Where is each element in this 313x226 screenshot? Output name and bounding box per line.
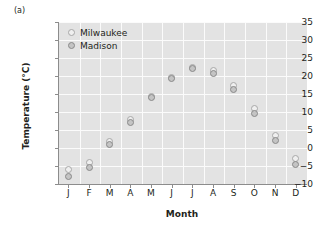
y-tick-mark xyxy=(55,94,58,95)
data-point xyxy=(251,110,258,117)
x-tick-label: N xyxy=(265,188,285,198)
y-tick-label: 15 xyxy=(265,89,313,99)
y-tick-mark xyxy=(55,76,58,77)
data-point xyxy=(210,70,217,77)
x-tick-label: F xyxy=(79,188,99,198)
y-tick-mark xyxy=(55,22,58,23)
x-tick-label: M xyxy=(141,188,161,198)
x-tick-label: J xyxy=(162,188,182,198)
x-tick-label: S xyxy=(224,188,244,198)
data-point xyxy=(106,141,113,148)
data-point xyxy=(65,166,72,173)
legend-item-madison[interactable]: Madison xyxy=(68,39,127,52)
x-tick-label: D xyxy=(286,188,306,198)
y-tick-mark xyxy=(55,130,58,131)
y-tick-label: 35 xyxy=(265,17,313,27)
gridline-vertical xyxy=(224,22,225,184)
x-axis-title: Month xyxy=(58,209,306,219)
filled-circle-icon xyxy=(68,42,75,49)
x-tick-label: A xyxy=(203,188,223,198)
y-tick-mark xyxy=(55,166,58,167)
open-circle-icon xyxy=(68,29,75,36)
legend-item-milwaukee[interactable]: Milwaukee xyxy=(68,26,127,39)
y-tick-mark xyxy=(55,148,58,149)
gridline-vertical xyxy=(142,22,143,184)
gridline-vertical xyxy=(183,22,184,184)
gridline-vertical xyxy=(162,22,163,184)
gridline-vertical xyxy=(204,22,205,184)
y-tick-label: 20 xyxy=(265,71,313,81)
y-tick-label: 0 xyxy=(265,143,313,153)
legend-label: Madison xyxy=(80,41,117,51)
y-tick-label: −5 xyxy=(265,161,313,171)
x-tick-label: A xyxy=(120,188,140,198)
y-tick-label: 25 xyxy=(265,53,313,63)
legend-label: Milwaukee xyxy=(80,28,127,38)
y-tick-label: 10 xyxy=(265,107,313,117)
legend: Milwaukee Madison xyxy=(68,26,127,52)
x-tick-label: J xyxy=(182,188,202,198)
gridline-vertical xyxy=(245,22,246,184)
y-axis-title: Temperature (°C) xyxy=(21,41,31,171)
panel-label: (a) xyxy=(14,6,25,15)
y-tick-label: 30 xyxy=(265,35,313,45)
gridline-vertical xyxy=(286,22,287,184)
x-tick-label: M xyxy=(100,188,120,198)
y-tick-mark xyxy=(55,40,58,41)
data-point xyxy=(272,137,279,144)
data-point xyxy=(86,164,93,171)
gridline-vertical xyxy=(266,22,267,184)
y-tick-mark xyxy=(55,112,58,113)
chart-figure: (a) Temperature (°C) Month 3530252015105… xyxy=(0,0,313,226)
data-point xyxy=(127,119,134,126)
data-point xyxy=(148,94,155,101)
x-tick-label: O xyxy=(244,188,264,198)
y-tick-mark xyxy=(55,184,58,185)
y-tick-mark xyxy=(55,58,58,59)
x-tick-label: J xyxy=(58,188,78,198)
